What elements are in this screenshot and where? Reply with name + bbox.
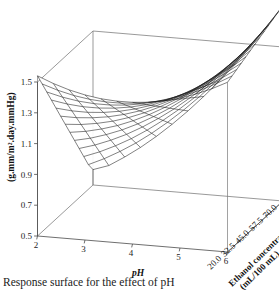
surface-plot-svg: 0.50.70.91.11.31.5 23456 20.032.545.057.… (0, 0, 279, 291)
x-tick-label: 3 (81, 244, 86, 254)
z-tick-label: 1.5 (21, 77, 33, 87)
z-axis-tick-labels: 0.50.70.91.11.31.5 (21, 77, 33, 241)
figure-caption: Response surface for the effect of pH (3, 272, 279, 290)
caption-text: Response surface for the effect of pH (3, 276, 175, 288)
y-tick-label: 32.5 (219, 240, 238, 258)
plot-box-frame (38, 31, 280, 252)
y-tick-label: 57.5 (247, 215, 266, 233)
z-tick-label: 0.9 (21, 170, 33, 180)
z-tick-label: 1.3 (21, 108, 33, 118)
response-surface-figure: 0.50.70.91.11.31.5 23456 20.032.545.057.… (0, 0, 279, 291)
z-tick-label: 1.1 (21, 139, 32, 149)
surface-mesh (38, 5, 280, 169)
x-tick-label: 5 (176, 252, 181, 262)
y-tick-label: 20.0 (205, 253, 224, 271)
x-tick-label: 2 (34, 240, 39, 250)
y-tick-label: 45.0 (233, 227, 252, 245)
z-tick-label: 0.7 (21, 200, 33, 210)
x-tick-label: 4 (129, 248, 134, 258)
y-tick-label: 70.0 (261, 202, 279, 220)
z-tick-label: 0.5 (21, 231, 33, 241)
z-axis-title: (g.mm/m².day.mmHg) (6, 92, 17, 182)
